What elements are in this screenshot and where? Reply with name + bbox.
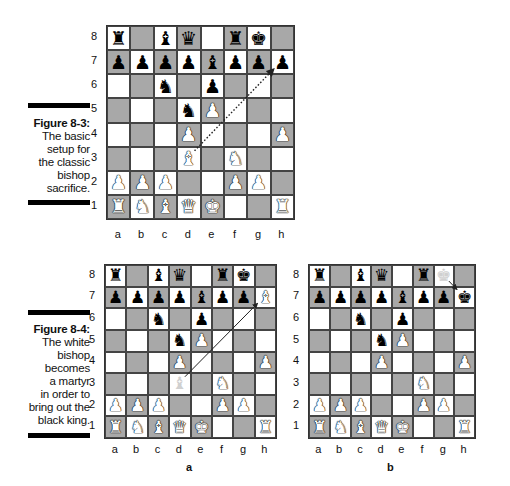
square-g7: ♟ [434, 287, 455, 309]
ghost-king-icon: ♚ [436, 267, 451, 284]
square-h6 [271, 74, 294, 98]
square-f8: ♜ [413, 265, 434, 287]
square-f1 [413, 416, 434, 438]
white-pawn-icon: ♟ [236, 397, 251, 414]
white-knight-icon: ♞ [134, 197, 151, 216]
square-d3: ♝ [169, 373, 190, 395]
square-b6 [330, 308, 351, 330]
file-label: a [108, 228, 128, 240]
square-f7: ♟ [413, 287, 434, 309]
square-g1 [247, 195, 270, 219]
square-c3 [351, 373, 372, 395]
square-b4 [126, 352, 147, 374]
black-rook-icon: ♜ [215, 267, 230, 284]
file-label: e [391, 443, 411, 455]
square-a1: ♜ [309, 416, 330, 438]
white-king-icon: ♚ [194, 419, 209, 436]
white-knight-icon: ♞ [333, 419, 348, 436]
white-bishop-icon: ♝ [180, 149, 197, 168]
black-pawn-icon: ♟ [194, 311, 209, 328]
square-g5 [247, 98, 270, 122]
rank-label: 7 [86, 289, 98, 301]
square-h7: ♟ [271, 50, 294, 74]
square-f6 [224, 74, 247, 98]
file-label: f [412, 443, 432, 455]
square-d2 [177, 171, 200, 195]
file-label: g [248, 228, 268, 240]
rank-label: 2 [88, 175, 100, 187]
square-e4 [191, 352, 212, 374]
square-a2: ♟ [107, 171, 130, 195]
figure-label: Figure 8-4: [0, 323, 90, 336]
square-d6 [169, 308, 190, 330]
white-pawn-icon: ♟ [134, 173, 151, 192]
figure-8-4b-board: ♜♝♛♜♚♟♟♟♟♝♟♟♚♞♟♞♟♟♟♞♟♟♟♟♟♜♞♝♛♚♜ [308, 264, 476, 439]
square-e7: ♝ [392, 287, 413, 309]
square-c5 [154, 98, 177, 122]
square-g4 [434, 352, 455, 374]
square-c1: ♝ [154, 195, 177, 219]
square-b8 [126, 265, 147, 287]
square-g4 [247, 123, 270, 147]
caption-rule-bottom [28, 200, 90, 205]
square-f5 [212, 330, 233, 352]
black-pawn-icon: ♟ [204, 77, 221, 96]
square-f5 [413, 330, 434, 352]
white-rook-icon: ♜ [457, 419, 472, 436]
white-knight-icon: ♞ [416, 375, 431, 392]
square-f7: ♟ [224, 50, 247, 74]
square-h6 [454, 308, 475, 330]
figure-8-3-board: ♜♝♛♜♚♟♟♟♟♝♟♟♟♞♟♞♟♟♟♝♞♟♟♟♟♟♜♞♝♛♚♜ [106, 25, 295, 220]
square-e6: ♟ [201, 74, 224, 98]
rank-label: 6 [88, 78, 100, 90]
black-pawn-icon: ♟ [436, 289, 451, 306]
square-e6: ♟ [191, 308, 212, 330]
square-d2 [371, 395, 392, 417]
square-a6 [107, 74, 130, 98]
square-c2: ♟ [351, 395, 372, 417]
square-g3 [434, 373, 455, 395]
rank-label: 2 [86, 398, 98, 410]
black-pawn-icon: ♟ [172, 289, 187, 306]
square-a3 [105, 373, 126, 395]
square-c1: ♝ [351, 416, 372, 438]
black-king-icon: ♚ [250, 29, 267, 48]
square-b3 [126, 373, 147, 395]
black-pawn-icon: ♟ [108, 289, 123, 306]
figure-8-4a-board: ♜♝♛♜♚♟♟♟♟♝♟♟♝♞♟♞♟♟♟♝♞♟♟♟♟♟♜♞♝♛♚♜ [104, 264, 277, 439]
file-label: e [201, 228, 221, 240]
square-a6 [309, 308, 330, 330]
square-h1: ♜ [255, 416, 276, 438]
square-h3 [255, 373, 276, 395]
square-d4: ♟ [177, 123, 200, 147]
square-f4 [224, 123, 247, 147]
black-bishop-icon: ♝ [194, 289, 209, 306]
file-label: a [308, 443, 328, 455]
square-g2: ♟ [233, 395, 254, 417]
square-a3 [309, 373, 330, 395]
black-bishop-icon: ♝ [151, 267, 166, 284]
black-knight-icon: ♞ [180, 101, 197, 120]
square-b3 [330, 373, 351, 395]
square-b4 [130, 123, 153, 147]
white-pawn-icon: ♟ [172, 354, 187, 371]
white-pawn-icon: ♟ [333, 397, 348, 414]
square-b2: ♟ [126, 395, 147, 417]
file-label: e [190, 443, 210, 455]
white-pawn-icon: ♟ [274, 125, 291, 144]
black-rook-icon: ♜ [108, 267, 123, 284]
rank-label: 3 [290, 376, 302, 388]
square-d1: ♛ [177, 195, 200, 219]
square-h8 [255, 265, 276, 287]
subfigure-label-b: b [387, 461, 394, 473]
white-queen-icon: ♛ [180, 197, 197, 216]
black-knight-icon: ♞ [157, 77, 174, 96]
square-e7: ♝ [191, 287, 212, 309]
square-e4 [201, 123, 224, 147]
square-d5: ♞ [169, 330, 190, 352]
square-a8: ♜ [105, 265, 126, 287]
square-f2: ♟ [224, 171, 247, 195]
square-h4: ♟ [271, 123, 294, 147]
square-a4 [309, 352, 330, 374]
square-c8: ♝ [148, 265, 169, 287]
